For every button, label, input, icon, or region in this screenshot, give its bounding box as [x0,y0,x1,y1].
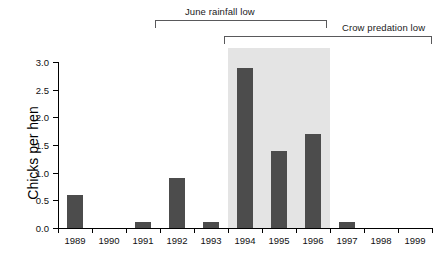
y-axis-tick-label: 1.0 [0,167,49,178]
x-axis-tick-label: 1992 [166,235,187,246]
x-axis-tick-mark [160,228,161,233]
x-axis-tick-mark [432,228,433,233]
x-axis-tick-mark [194,228,195,233]
x-axis-tick-label: 1994 [234,235,255,246]
x-axis-tick-mark [126,228,127,233]
bar [237,68,253,228]
y-axis-tick-label: 2.5 [0,84,49,95]
bar [305,134,321,228]
x-axis-tick-label: 1995 [268,235,289,246]
x-axis-tick-label: 1998 [370,235,391,246]
x-axis-tick-mark [296,228,297,233]
x-axis-tick-label: 1999 [404,235,425,246]
bar [67,195,83,228]
x-axis-tick-label: 1993 [200,235,221,246]
annotation-label-june-rainfall-low: June rainfall low [185,6,255,17]
x-axis-tick-label: 1997 [336,235,357,246]
x-axis-tick-label: 1990 [98,235,119,246]
x-axis-line [58,228,432,229]
x-axis-tick-mark [228,228,229,233]
bar [271,151,287,228]
x-axis-tick-mark [330,228,331,233]
x-axis-tick-label: 1991 [132,235,153,246]
x-axis-tick-label: 1989 [64,235,85,246]
x-axis-tick-mark [58,228,59,233]
annotation-label-crow-predation-low: Crow predation low [342,22,425,33]
annotation-bracket-june-rainfall-low [155,20,327,28]
x-axis-tick-mark [92,228,93,233]
x-axis-tick-label: 1996 [302,235,323,246]
annotation-bracket-crow-predation-low [224,36,432,44]
x-axis-tick-mark [262,228,263,233]
y-axis-tick-label: 2.0 [0,112,49,123]
chart-figure: June rainfall low Crow predation low Chi… [0,0,448,259]
y-axis-tick-label: 0.5 [0,195,49,206]
plot-area [58,48,432,228]
y-axis-line [58,62,59,228]
y-axis-tick-label: 3.0 [0,57,49,68]
x-axis-tick-mark [398,228,399,233]
x-axis-tick-mark [364,228,365,233]
y-axis-tick-label: 0.0 [0,223,49,234]
y-axis-tick-label: 1.5 [0,140,49,151]
bar [169,178,185,228]
